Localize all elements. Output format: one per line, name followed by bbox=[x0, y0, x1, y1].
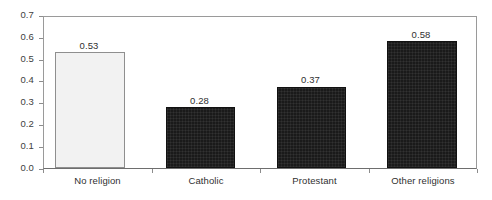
bar-value-label-no-religion: 0.53 bbox=[54, 40, 124, 51]
y-axis-tick-label: 0.5 bbox=[20, 53, 34, 64]
x-axis-label-protestant: Protestant bbox=[260, 175, 369, 186]
x-axis-label-no-religion: No religion bbox=[43, 175, 152, 186]
bar-other-religions[interactable] bbox=[387, 41, 457, 168]
y-axis-tick-label: 0.7 bbox=[20, 9, 34, 20]
x-axis-label-catholic: Catholic bbox=[152, 175, 260, 186]
bar-chart-figure: 0.7 0.6 0.5 0.4 0.3 0.2 0.1 0.0 0.53 0.2… bbox=[0, 0, 492, 200]
y-axis-tick-label: 0.1 bbox=[20, 140, 34, 151]
bar-value-label-other-religions: 0.58 bbox=[386, 29, 456, 40]
bar-value-label-catholic: 0.28 bbox=[165, 95, 234, 106]
x-axis-tick-mark bbox=[260, 169, 261, 173]
bar-no-religion[interactable] bbox=[55, 52, 125, 168]
y-axis-tick-label: 0.6 bbox=[20, 31, 34, 42]
y-axis-tick-label: 0.3 bbox=[20, 96, 34, 107]
y-axis-tick-label: 0.0 bbox=[20, 162, 34, 173]
bar-value-label-protestant: 0.37 bbox=[276, 74, 345, 85]
x-axis-tick-mark bbox=[477, 169, 478, 173]
x-axis-tick-mark bbox=[369, 169, 370, 173]
y-axis-tick-label: 0.2 bbox=[20, 118, 34, 129]
y-axis-tick-label: 0.4 bbox=[20, 74, 34, 85]
x-axis-label-other-religions: Other religions bbox=[369, 175, 477, 186]
x-axis-tick-mark bbox=[152, 169, 153, 173]
bar-catholic[interactable] bbox=[166, 107, 235, 168]
x-axis-tick-mark bbox=[43, 169, 44, 173]
bar-protestant[interactable] bbox=[277, 87, 346, 168]
